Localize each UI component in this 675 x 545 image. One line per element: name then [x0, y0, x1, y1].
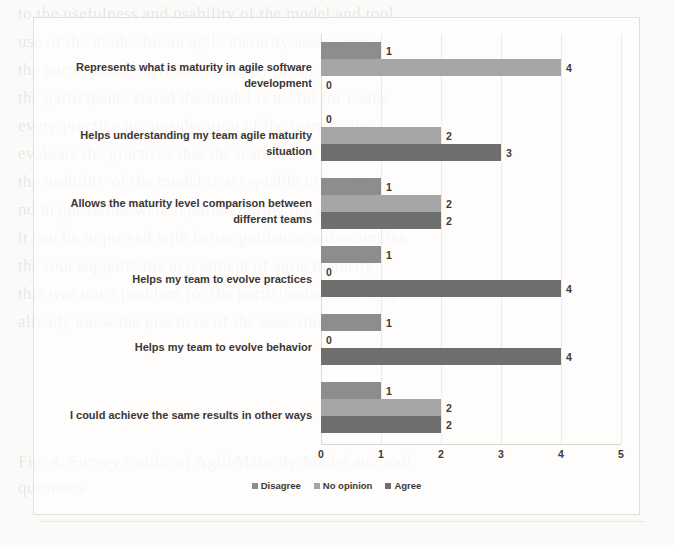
legend-swatch-icon	[385, 483, 391, 489]
bar-value-label: 3	[506, 147, 512, 159]
bar-group: Allows the maturity level comparison bet…	[321, 178, 621, 246]
bar-value-label: 1	[386, 317, 392, 329]
category-axis-label: Helps my team to evolve behavior	[44, 340, 312, 356]
bar-value-label: 0	[326, 334, 332, 346]
category-axis-label: Represents what is maturity in agile sof…	[44, 60, 312, 91]
bar-row: 4	[321, 280, 621, 297]
bar-disagree[interactable]	[321, 382, 381, 399]
bar-value-label: 4	[566, 283, 572, 295]
bar-row: 2	[321, 399, 621, 416]
bar-row: 0	[321, 76, 621, 93]
bar-row: 3	[321, 144, 621, 161]
bar-group: Represents what is maturity in agile sof…	[321, 42, 621, 110]
bar-row: 1	[321, 382, 621, 399]
bar-group: I could achieve the same results in othe…	[321, 382, 621, 450]
bar-row: 1	[321, 314, 621, 331]
category-axis-label: Allows the maturity level comparison bet…	[44, 196, 312, 227]
bar-row: 1	[321, 178, 621, 195]
legend-label: Agree	[394, 480, 421, 491]
bar-group: Helps understanding my team agile maturi…	[321, 110, 621, 178]
category-axis-label: Helps understanding my team agile maturi…	[44, 128, 312, 159]
plot-area: Represents what is maturity in agile sof…	[321, 34, 621, 444]
bar-no-opinion[interactable]	[321, 127, 441, 144]
bar-no-opinion[interactable]	[321, 195, 441, 212]
bar-value-label: 0	[326, 113, 332, 125]
bar-value-label: 2	[446, 215, 452, 227]
bar-row: 0	[321, 263, 621, 280]
bar-row: 4	[321, 348, 621, 365]
x-axis-tick-label: 0	[318, 448, 324, 460]
bar-value-label: 1	[386, 181, 392, 193]
legend-item-no-opinion[interactable]: No opinion	[314, 480, 373, 491]
bar-row: 1	[321, 42, 621, 59]
x-axis-tick-label: 1	[378, 448, 384, 460]
bar-row: 2	[321, 127, 621, 144]
chart-legend: DisagreeNo opinionAgree	[34, 480, 639, 491]
page-rule-line	[40, 521, 645, 522]
gridline	[621, 34, 622, 444]
legend-swatch-icon	[314, 483, 320, 489]
bar-agree[interactable]	[321, 212, 441, 229]
x-axis-tick-label: 5	[618, 448, 624, 460]
x-axis-tick-label: 4	[558, 448, 564, 460]
bar-no-opinion[interactable]	[321, 399, 441, 416]
legend-label: No opinion	[323, 480, 373, 491]
bar-agree[interactable]	[321, 416, 441, 433]
bar-value-label: 4	[566, 351, 572, 363]
bar-disagree[interactable]	[321, 178, 381, 195]
bar-row: 2	[321, 195, 621, 212]
bar-value-label: 0	[326, 79, 332, 91]
legend-item-agree[interactable]: Agree	[385, 480, 421, 491]
bar-row: 0	[321, 110, 621, 127]
legend-label: Disagree	[261, 480, 301, 491]
bar-disagree[interactable]	[321, 42, 381, 59]
bar-row: 2	[321, 416, 621, 433]
bar-disagree[interactable]	[321, 246, 381, 263]
bar-row: 0	[321, 331, 621, 348]
x-axis-tick-label: 3	[498, 448, 504, 460]
bar-no-opinion[interactable]	[321, 59, 561, 76]
bar-value-label: 1	[386, 249, 392, 261]
bar-group: Helps my team to evolve behavior104	[321, 314, 621, 382]
bar-group: Helps my team to evolve practices104	[321, 246, 621, 314]
bar-agree[interactable]	[321, 144, 501, 161]
bar-value-label: 2	[446, 130, 452, 142]
bar-value-label: 0	[326, 266, 332, 278]
bar-disagree[interactable]	[321, 314, 381, 331]
bar-row: 2	[321, 212, 621, 229]
bar-row: 4	[321, 59, 621, 76]
bar-value-label: 1	[386, 45, 392, 57]
legend-item-disagree[interactable]: Disagree	[252, 480, 301, 491]
bar-value-label: 2	[446, 419, 452, 431]
bar-value-label: 4	[566, 62, 572, 74]
category-axis-label: I could achieve the same results in othe…	[44, 408, 312, 424]
bar-value-label: 2	[446, 198, 452, 210]
x-axis: 012345	[321, 444, 621, 445]
bar-value-label: 1	[386, 385, 392, 397]
category-axis-label: Helps my team to evolve practices	[44, 272, 312, 288]
bar-agree[interactable]	[321, 280, 561, 297]
x-axis-tick-label: 2	[438, 448, 444, 460]
bar-chart-figure: Represents what is maturity in agile sof…	[33, 17, 640, 515]
bar-agree[interactable]	[321, 348, 561, 365]
bar-value-label: 2	[446, 402, 452, 414]
bar-row: 1	[321, 246, 621, 263]
legend-swatch-icon	[252, 483, 258, 489]
